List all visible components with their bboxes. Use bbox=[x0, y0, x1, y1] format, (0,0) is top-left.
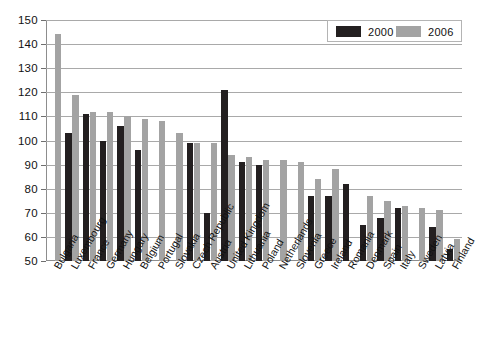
bar-group bbox=[341, 20, 358, 261]
y-axis-tick-label: 90 bbox=[0, 159, 38, 171]
bar-group bbox=[63, 20, 80, 261]
legend-label-2006: 2006 bbox=[428, 26, 454, 38]
category-axis-labels: BulgariaLuxembourgFranceGermanyHungaryBe… bbox=[46, 263, 462, 348]
legend-item-2000: 2000 bbox=[336, 25, 394, 38]
chart-legend: 2000 2006 bbox=[327, 20, 462, 42]
legend-label-2000: 2000 bbox=[368, 26, 394, 38]
y-axis-tick-label: 110 bbox=[0, 110, 38, 122]
bar-group bbox=[167, 20, 184, 261]
y-axis-tick-label: 60 bbox=[0, 231, 38, 243]
bar-group bbox=[46, 20, 63, 261]
legend-swatch-2006 bbox=[396, 26, 421, 37]
legend-item-2006: 2006 bbox=[396, 25, 454, 38]
legend-swatch-2000 bbox=[336, 26, 361, 37]
bar-group bbox=[410, 20, 427, 261]
y-axis-tick-label: 70 bbox=[0, 207, 38, 219]
bar-2000 bbox=[221, 90, 227, 261]
bar-group bbox=[445, 20, 462, 261]
bar-group bbox=[427, 20, 444, 261]
bar-group bbox=[375, 20, 392, 261]
bar-2006 bbox=[107, 112, 113, 261]
bar-group bbox=[185, 20, 202, 261]
y-axis-tick-label: 100 bbox=[0, 135, 38, 147]
bar-group bbox=[323, 20, 340, 261]
y-axis-tick-mark bbox=[41, 261, 46, 262]
y-axis-tick-label: 120 bbox=[0, 86, 38, 98]
y-axis-tick-label: 140 bbox=[0, 38, 38, 50]
bar-group bbox=[133, 20, 150, 261]
bar-2006 bbox=[55, 34, 61, 261]
bar-group bbox=[393, 20, 410, 261]
y-axis-tick-label: 50 bbox=[0, 255, 38, 267]
bar-group bbox=[271, 20, 288, 261]
bar-group bbox=[150, 20, 167, 261]
y-axis-tick-label: 130 bbox=[0, 62, 38, 74]
bar-group bbox=[358, 20, 375, 261]
y-axis-tick-label: 150 bbox=[0, 14, 38, 26]
y-axis-tick-label: 80 bbox=[0, 183, 38, 195]
bar-group bbox=[115, 20, 132, 261]
